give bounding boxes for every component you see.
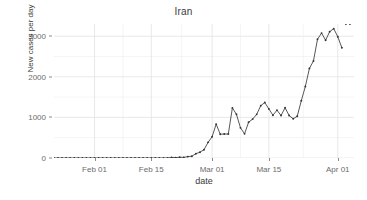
x-tick-mark [338,158,339,161]
chart-title: Iran [0,6,367,17]
x-tick-label: Mar 15 [256,165,281,174]
x-axis-title: date [54,176,354,186]
y-tick-mark [49,36,52,37]
y-tick-mark [49,117,52,118]
y-tick-label: 0 [42,154,46,163]
chart-container: Iran 0100020003000 New cases per day Feb… [0,0,367,200]
x-tick-label: Mar 01 [200,165,225,174]
x-tick-mark [269,158,270,161]
y-tick-mark [49,76,52,77]
y-axis-title: New cases per day [26,0,35,99]
line-series-new-cases [54,24,354,158]
x-tick-label: Feb 15 [139,165,164,174]
x-tick-mark [212,158,213,161]
y-tick-label: 1000 [28,113,46,122]
x-tick-label: Apr 01 [326,165,350,174]
x-tick-label: Feb 01 [82,165,107,174]
x-tick-mark [95,158,96,161]
plot-panel [54,24,354,158]
x-tick-mark [151,158,152,161]
y-tick-mark [49,158,52,159]
